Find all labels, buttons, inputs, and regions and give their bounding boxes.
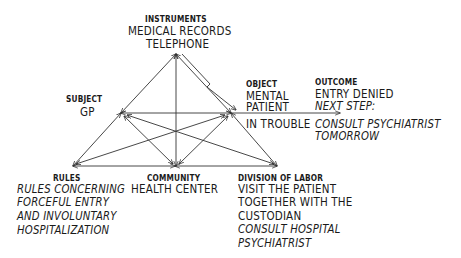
next-step-line-2: TOMORROW [315,131,379,143]
subject-line-1: GP [80,107,95,119]
division-line-2: TOGETHER WITH THE [238,197,353,209]
next-step-label: NEXT STEP: [315,101,375,113]
rules-line-4: HOSPITALIZATION [17,225,109,237]
object-header: OBJECT [246,80,277,89]
instruments-line-1: MEDICAL RECORDS [128,26,231,38]
tension-lightning-arrow [182,54,236,110]
edge-object-rules [76,115,225,164]
subject-header: SUBJECT [66,95,102,104]
object-line-3: IN TROUBLE [246,119,311,131]
rules-line-3: AND INVOLUNTARY [17,211,117,223]
community-line-1: HEALTH CENTER [131,184,218,196]
edge-subject-rules [73,113,121,166]
edge-instruments-object [176,54,231,113]
edge-object-community [179,116,228,164]
division-line-3: CUSTODIAN [238,211,301,223]
rules-line-2: FORCEFUL ENTRY [17,197,109,209]
division-line-1: VISIT THE PATIENT [238,184,336,196]
division-italic-line-2: PSYCHIATRIST [238,238,311,250]
instruments-header: INSTRUMENTS [145,15,207,24]
object-line-2: PATIENT [246,102,289,114]
edge-instruments-subject [121,54,176,113]
outcome-header: OUTCOME [315,78,358,87]
instruments-line-2: TELEPHONE [146,39,209,51]
division-italic-line-1: CONSULT HOSPITAL [238,224,341,236]
rules-line-1: RULES CONCERNING [17,184,125,196]
